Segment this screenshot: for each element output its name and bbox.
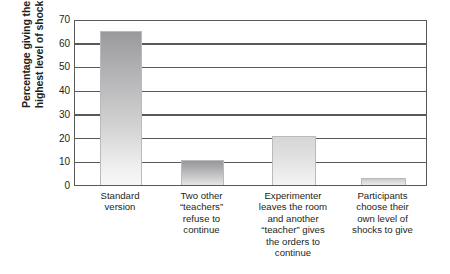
- y-tick-label: 30: [48, 110, 70, 120]
- x-category-label-line: refuse to: [162, 213, 242, 224]
- x-category-label-line: shocks to give: [337, 224, 429, 235]
- x-category-label-line: own level of: [337, 213, 429, 224]
- x-category-label: Experimenterleaves the roomand another“t…: [243, 190, 343, 258]
- bar: [181, 160, 224, 185]
- x-category-label-line: leaves the room: [243, 201, 343, 212]
- x-category-label-line: Experimenter: [243, 190, 343, 201]
- y-axis-title-line-2: highest level of shock: [32, 0, 45, 135]
- x-category-label-line: choose their: [337, 201, 429, 212]
- x-category-label-line: Participants: [337, 190, 429, 201]
- y-tick-label: 0: [48, 181, 70, 191]
- x-category-label-line: and another: [243, 213, 343, 224]
- x-category-label-line: continue: [162, 224, 242, 235]
- y-tick-label: 50: [48, 62, 70, 72]
- x-category-label-line: “teacher” gives: [243, 224, 343, 235]
- y-tick-label: 20: [48, 134, 70, 144]
- x-category-label-line: continue: [243, 247, 343, 258]
- x-category-label-line: Standard: [80, 190, 160, 201]
- x-category-label: Two other“teachers”refuse tocontinue: [162, 190, 242, 236]
- bar: [361, 178, 406, 185]
- y-axis-title: Percentage giving the highest level of s…: [20, 0, 45, 135]
- y-tick-label: 60: [48, 39, 70, 49]
- plot-area: [74, 20, 427, 186]
- x-category-label-line: version: [80, 201, 160, 212]
- y-tick-label: 70: [48, 15, 70, 25]
- y-axis-title-line-1: Percentage giving the: [20, 0, 33, 135]
- bar: [100, 31, 142, 185]
- y-axis-tick-labels: 706050403020100: [48, 14, 70, 192]
- x-category-label-line: the orders to: [243, 236, 343, 247]
- x-category-label: Participantschoose theirown level ofshoc…: [337, 190, 429, 236]
- bar-chart-figure: Percentage giving the highest level of s…: [0, 0, 450, 274]
- y-tick-label: 40: [48, 86, 70, 96]
- x-category-label: Standardversion: [80, 190, 160, 213]
- x-category-label-line: “teachers”: [162, 201, 242, 212]
- y-tick-label: 10: [48, 157, 70, 167]
- bar: [272, 136, 316, 185]
- x-category-label-line: Two other: [162, 190, 242, 201]
